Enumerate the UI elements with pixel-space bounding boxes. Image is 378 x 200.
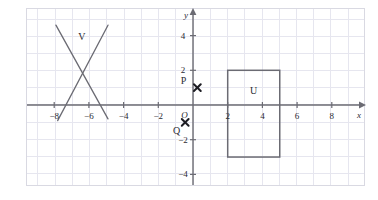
x-tick-label-2: 2 xyxy=(225,111,230,121)
y-tick-label--4: −4 xyxy=(178,169,188,179)
y-axis-label: y xyxy=(184,10,188,20)
coordinate-grid-figure: −8−6−4−2246842−2−4OxyUVPQ xyxy=(0,0,378,200)
origin-label: O xyxy=(181,110,188,120)
y-tick-label--2: −2 xyxy=(178,135,188,145)
x-tick-label--6: −6 xyxy=(84,111,94,121)
shape-label-V: V xyxy=(78,30,85,41)
x-tick-label-6: 6 xyxy=(295,111,300,121)
y-tick-label-4: 4 xyxy=(181,31,186,41)
x-tick-label--4: −4 xyxy=(119,111,129,121)
x-axis-label: x xyxy=(357,110,361,120)
point-label-Q: Q xyxy=(173,125,180,136)
point-label-P: P xyxy=(181,74,187,85)
grid-frame xyxy=(26,8,365,186)
x-tick-label--2: −2 xyxy=(154,111,164,121)
x-tick-label--8: −8 xyxy=(49,111,59,121)
x-tick-label-4: 4 xyxy=(260,111,265,121)
shape-label-U: U xyxy=(250,85,257,96)
x-tick-label-8: 8 xyxy=(330,111,335,121)
